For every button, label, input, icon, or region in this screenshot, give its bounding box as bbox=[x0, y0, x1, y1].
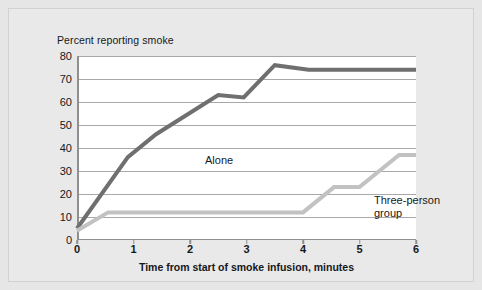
chart-title: Percent reporting smoke bbox=[57, 34, 174, 46]
x-tick-label-0: 0 bbox=[74, 243, 80, 255]
y-tick-label-70: 70 bbox=[60, 73, 72, 85]
x-tick-label-1: 1 bbox=[130, 243, 136, 255]
x-axis-tick-labels: 0123456 bbox=[77, 243, 416, 259]
x-tick-label-4: 4 bbox=[300, 243, 306, 255]
series-lines bbox=[77, 56, 416, 240]
y-tick-label-50: 50 bbox=[60, 119, 72, 131]
y-tick-label-80: 80 bbox=[60, 50, 72, 62]
y-tick-label-20: 20 bbox=[60, 188, 72, 200]
chart-figure: Percent reporting smoke Alone Three-pers… bbox=[0, 0, 482, 290]
y-tick-label-60: 60 bbox=[60, 96, 72, 108]
y-tick-label-0: 0 bbox=[66, 234, 72, 246]
y-axis-tick-labels: 01020304050607080 bbox=[49, 56, 72, 240]
x-axis-label: Time from start of smoke infusion, minut… bbox=[77, 261, 416, 273]
series-label-line1: Three-person bbox=[374, 194, 440, 207]
x-tick-label-5: 5 bbox=[356, 243, 362, 255]
series-label-three-person-group: Three-person group bbox=[374, 194, 440, 219]
series-line-alone bbox=[77, 65, 416, 228]
x-tick-label-3: 3 bbox=[243, 243, 249, 255]
y-tick-label-40: 40 bbox=[60, 142, 72, 154]
series-line-three-person-group bbox=[77, 155, 416, 231]
figure-frame: Percent reporting smoke Alone Three-pers… bbox=[8, 8, 474, 282]
plot-area: Alone Three-person group bbox=[77, 56, 416, 240]
x-tick-label-6: 6 bbox=[413, 243, 419, 255]
x-tick-label-2: 2 bbox=[187, 243, 193, 255]
series-label-line2: group bbox=[374, 207, 440, 220]
series-label-alone: Alone bbox=[205, 154, 233, 167]
y-tick-label-10: 10 bbox=[60, 211, 72, 223]
y-tick-label-30: 30 bbox=[60, 165, 72, 177]
